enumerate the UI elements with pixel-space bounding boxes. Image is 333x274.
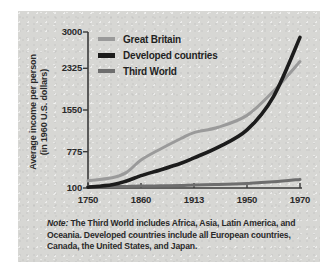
y-tick-label-3000: 3000 <box>44 26 82 37</box>
y-axis-title-line-1: Average income per person <box>28 38 39 186</box>
legend-swatch-icon <box>98 69 115 73</box>
note-label: Note: <box>47 218 68 228</box>
y-axis-title-line-2: (in 1960 U.S. dollars) <box>39 38 50 186</box>
legend-label: Third World <box>123 66 177 77</box>
x-tick-label-1860: 1860 <box>121 194 161 205</box>
x-tick-label-1970: 1970 <box>280 194 320 205</box>
legend-label: Developed countries <box>123 50 218 61</box>
legend-swatch-icon <box>98 37 115 41</box>
chart-legend: Great BritainDeveloped countriesThird Wo… <box>98 31 248 79</box>
legend-item-great-britain: Great Britain <box>98 31 248 47</box>
x-tick-label-1913: 1913 <box>174 194 214 205</box>
legend-item-third-world: Third World <box>98 63 248 79</box>
note-text: The Third World includes Africa, Asia, L… <box>47 218 295 251</box>
chart-note: Note: The Third World includes Africa, A… <box>47 218 299 253</box>
x-tick-label-1950: 1950 <box>227 194 267 205</box>
x-tick-label-1750: 1750 <box>68 194 108 205</box>
legend-swatch-icon <box>98 53 115 58</box>
legend-item-developed-countries: Developed countries <box>98 47 248 63</box>
legend-label: Great Britain <box>123 34 181 45</box>
y-axis-title: Average income per person (in 1960 U.S. … <box>28 38 54 186</box>
chart-figure: 100775155023253000 17501860191319501970 … <box>0 0 333 274</box>
